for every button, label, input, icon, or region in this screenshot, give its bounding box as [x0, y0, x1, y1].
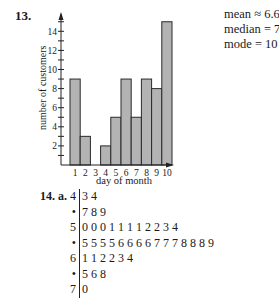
stem-value: 5: [14, 220, 79, 236]
bar-day-9: [152, 89, 162, 165]
leaf-values: 7 8 9: [79, 205, 106, 221]
stem-leaf-row: 61 1 2 2 3 4: [14, 251, 214, 267]
stem-leaf-row: 70: [14, 282, 214, 298]
leaf-values: 3 4: [79, 189, 97, 205]
y-tick-label: 4: [52, 122, 57, 132]
stem-value: 6: [14, 251, 79, 267]
bar-day-6: [121, 79, 131, 165]
bar-day-2: [80, 136, 90, 165]
y-tick-label: 12: [48, 46, 58, 56]
leaf-values: 0 0 0 1 1 1 1 2 2 3 4: [79, 220, 178, 236]
x-tick-label: 2: [83, 168, 88, 178]
leaf-values: 5 6 8: [79, 267, 106, 283]
stem-value: •: [14, 205, 79, 221]
stem-value: 14. a. 4: [14, 189, 79, 205]
leaf-values: 0: [79, 282, 88, 298]
stem-leaf-row: •5 6 8: [14, 267, 214, 283]
y-axis-arrow-icon: [59, 12, 64, 20]
x-tick-label: 9: [154, 168, 159, 178]
stem-leaf-row: •7 8 9: [14, 205, 214, 221]
x-tick-label: 8: [144, 168, 149, 178]
stem-and-leaf-plot: 14. a. 43 4•7 8 950 0 0 1 1 1 1 2 2 3 4•…: [14, 189, 214, 298]
y-tick-label: 6: [52, 103, 57, 113]
stem-leaf-row: 50 0 0 1 1 1 1 2 2 3 4: [14, 220, 214, 236]
problem-14-number: 14. a.: [40, 189, 70, 203]
y-tick-label: 8: [52, 84, 57, 94]
stem-leaf-row: 14. a. 43 4: [14, 189, 214, 205]
stem-value: •: [14, 236, 79, 252]
stem-value: 7: [14, 282, 79, 298]
x-tick-label: 5: [114, 168, 119, 178]
x-tick-label: 6: [124, 168, 129, 178]
histogram-chart: 123456789102468101214: [0, 0, 279, 190]
y-tick-label: 2: [52, 141, 57, 151]
bar-day-5: [111, 117, 121, 165]
x-tick-label: 3: [93, 168, 98, 178]
bar-day-4: [101, 146, 111, 165]
bar-day-10: [162, 22, 172, 165]
y-tick-label: 14: [48, 27, 58, 37]
stem-value: •: [14, 267, 79, 283]
bar-day-8: [141, 79, 151, 165]
x-tick-label: 10: [162, 168, 172, 178]
x-tick-label: 4: [103, 168, 108, 178]
x-tick-label: 1: [73, 168, 78, 178]
x-tick-label: 7: [134, 168, 139, 178]
y-tick-label: 10: [48, 65, 58, 75]
leaf-values: 5 5 5 5 6 6 6 6 7 7 7 8 8 8 9: [79, 236, 214, 252]
leaf-values: 1 1 2 2 3 4: [79, 251, 133, 267]
stem-leaf-row: •5 5 5 5 6 6 6 6 7 7 7 8 8 8 9: [14, 236, 214, 252]
bar-day-1: [70, 79, 80, 165]
bar-day-7: [131, 117, 141, 165]
